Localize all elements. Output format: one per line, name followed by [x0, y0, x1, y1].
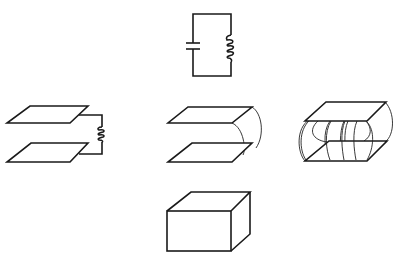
inductor-coil-icon [98, 127, 104, 142]
curved-strip [385, 102, 393, 142]
bottom-plate [7, 143, 88, 162]
curved-strip [252, 107, 261, 148]
plates-with-many-strips: Parallel plates joined by many curved st… [299, 102, 392, 161]
plates-with-coil: Parallel plates connected through a coil [7, 106, 104, 162]
bottom-plate [305, 141, 387, 161]
top-plate [168, 107, 252, 123]
top-plate [305, 102, 386, 121]
cavity-box: Closed box cavity resonator [167, 192, 250, 251]
top-plate [7, 106, 88, 123]
box-front-face [167, 211, 231, 251]
curved-strip [299, 120, 309, 161]
diagram-canvas: LC circuit (capacitor + inductor) Parall… [0, 0, 397, 262]
plates-with-strip: Parallel plates joined by a single curve… [168, 107, 261, 162]
wire-loop [193, 14, 231, 76]
box-top-face [167, 192, 250, 211]
bottom-plate [168, 143, 252, 162]
wire [79, 115, 102, 127]
curved-strip [364, 121, 370, 141]
inductor-coil-icon [226, 35, 233, 62]
lc-circuit: LC circuit (capacitor + inductor) [186, 14, 233, 76]
